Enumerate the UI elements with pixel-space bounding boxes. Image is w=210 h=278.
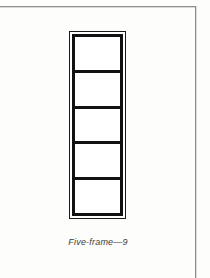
frame-pane <box>75 37 120 73</box>
frame-pane <box>75 180 120 213</box>
frame-inner-border <box>72 34 123 216</box>
five-frame-figure: Five-frame—9 <box>0 0 196 278</box>
frame-pane <box>75 73 120 109</box>
frame-pane <box>75 109 120 145</box>
page-canvas: Five-frame—9 <box>0 0 210 278</box>
frame-pane <box>75 144 120 180</box>
frame-outer-border <box>69 31 126 219</box>
figure-caption: Five-frame—9 <box>0 237 196 247</box>
